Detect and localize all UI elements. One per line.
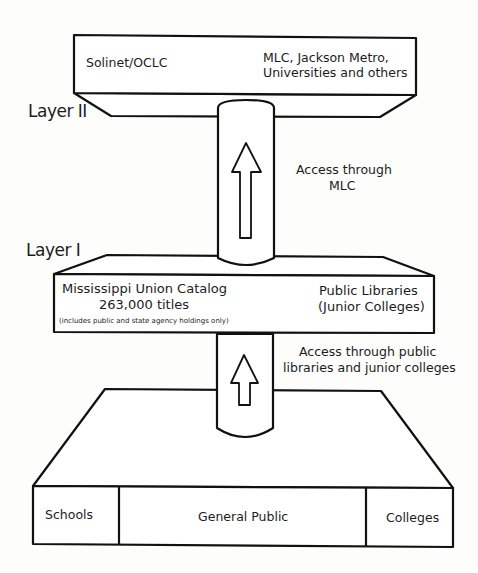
layer1-right-line2: (Junior Colleges) xyxy=(318,300,425,315)
layer1-right-line1: Public Libraries xyxy=(319,284,418,299)
access-mlc-line1: Access through xyxy=(296,163,392,177)
access-public-line1: Access through public xyxy=(299,345,436,359)
access-public-line2: libraries and junior colleges xyxy=(283,361,456,375)
layer1-left-line1: Mississippi Union Catalog xyxy=(62,282,227,297)
base-segment-colleges: Colleges xyxy=(386,511,439,525)
layer2-right-text-line1: MLC, Jackson Metro, xyxy=(263,51,389,65)
layer1-left-note: (includes public and state agency holdin… xyxy=(59,317,229,325)
layer2-label: Layer II xyxy=(28,102,87,122)
layer2-left-text: Solinet/OCLC xyxy=(86,56,168,70)
access-mlc-line2: MLC xyxy=(329,179,355,193)
layer1-left-line2: 263,000 titles xyxy=(99,298,189,313)
base-segment-general-public: General Public xyxy=(198,510,288,524)
base-segment-schools: Schools xyxy=(45,508,93,522)
layer2-right-text-line2: Universities and others xyxy=(263,66,408,80)
layer1-label: Layer I xyxy=(26,241,80,261)
